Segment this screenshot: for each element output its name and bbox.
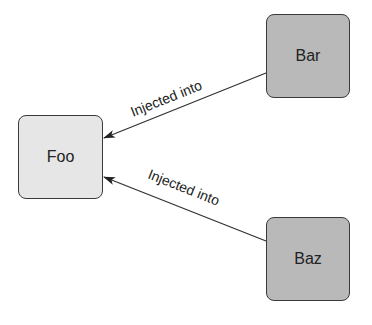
node-baz: Baz bbox=[266, 217, 350, 301]
node-foo: Foo bbox=[18, 115, 103, 199]
edge-bar-to-foo: Injected into bbox=[104, 73, 266, 138]
edge-baz-to-foo: Injected into bbox=[104, 166, 266, 241]
edge-label: Injected into bbox=[146, 166, 222, 209]
node-label: Foo bbox=[47, 148, 75, 166]
node-bar: Bar bbox=[266, 14, 350, 98]
node-label: Bar bbox=[296, 47, 321, 65]
node-label: Baz bbox=[294, 250, 322, 268]
